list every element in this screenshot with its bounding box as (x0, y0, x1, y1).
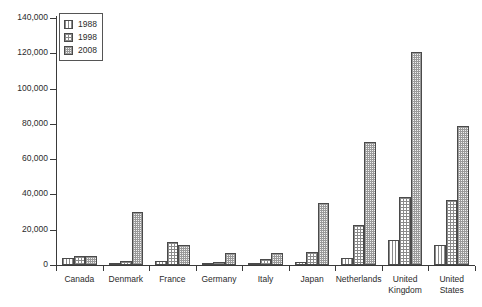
legend-swatch-icon (64, 20, 73, 29)
y-axis-tick-label: 60,000 (2, 154, 48, 163)
bar (411, 52, 423, 265)
bar (295, 262, 307, 265)
bar (341, 258, 353, 265)
bar (364, 142, 376, 266)
bar (388, 240, 400, 265)
bar (225, 253, 237, 265)
bar (260, 259, 272, 265)
x-axis-category-label: Italy (242, 274, 289, 285)
y-axis-tick-label: 0 (2, 260, 48, 269)
x-axis-tick (428, 266, 429, 271)
x-axis-tick (475, 266, 476, 271)
bar (248, 263, 260, 265)
legend-item-label: 2008 (78, 46, 97, 55)
x-axis-category-label: Canada (56, 274, 103, 285)
bar (271, 253, 283, 265)
y-axis-tick-label: 20,000 (2, 225, 48, 234)
legend-item: 1998 (64, 31, 97, 43)
bar (202, 263, 214, 265)
bar (155, 261, 167, 265)
bars-layer (56, 18, 475, 265)
bar (434, 245, 446, 265)
legend-item-label: 1988 (78, 20, 97, 29)
bar (85, 256, 97, 265)
chart-legend: 198819982008 (59, 13, 103, 61)
bar (306, 252, 318, 265)
x-axis-tick (382, 266, 383, 271)
x-axis-category-label: France (149, 274, 196, 285)
y-axis-tick-label: 100,000 (2, 84, 48, 93)
x-axis-category-label: Denmark (103, 274, 150, 285)
x-axis-tick (196, 266, 197, 271)
x-axis-tick (149, 266, 150, 271)
y-axis-tick-label: 80,000 (2, 119, 48, 128)
x-axis-tick (289, 266, 290, 271)
bar (399, 197, 411, 265)
bar (132, 212, 144, 265)
bar (62, 258, 74, 265)
legend-item-label: 1998 (78, 33, 97, 42)
x-axis-category-label: Japan (289, 274, 336, 285)
y-axis-tick-label: 120,000 (2, 48, 48, 57)
bar (109, 263, 121, 265)
bar (167, 242, 179, 265)
x-axis-category-label: Netherlands (335, 274, 382, 285)
x-axis-category-label: United States (428, 274, 475, 295)
bar (318, 203, 330, 265)
x-axis-line (56, 265, 475, 266)
bar-chart: 020,00040,00060,00080,000100,000120,0001… (0, 0, 482, 307)
legend-item: 2008 (64, 44, 97, 56)
legend-swatch-icon (64, 46, 73, 55)
y-axis-tick-label: 40,000 (2, 189, 48, 198)
x-axis-tick (335, 266, 336, 271)
x-axis-category-label: United Kingdom (382, 274, 429, 295)
x-axis-tick (103, 266, 104, 271)
bar (74, 256, 86, 265)
bar (457, 126, 469, 265)
x-axis-tick (56, 266, 57, 271)
bar (178, 245, 190, 265)
legend-item: 1988 (64, 18, 97, 30)
y-axis-tick-label: 140,000 (2, 13, 48, 22)
bar (120, 261, 132, 265)
x-axis-tick (242, 266, 243, 271)
bar (353, 225, 365, 265)
bar (446, 200, 458, 265)
legend-swatch-icon (64, 33, 73, 42)
bar (213, 262, 225, 265)
x-axis-category-label: Germany (196, 274, 243, 285)
